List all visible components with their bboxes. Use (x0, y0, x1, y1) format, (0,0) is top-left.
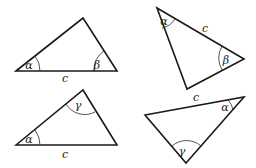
triangle-diagram: α β c α β c α γ c α γ c (0, 0, 256, 168)
triangle-1: α β c (16, 18, 117, 85)
triangle-2: α β c (157, 8, 244, 89)
angle-alpha-label: α (25, 133, 33, 146)
triangle-2-outline (157, 8, 244, 89)
triangle-4: α γ c (145, 91, 244, 163)
angle-gamma-label: γ (75, 99, 82, 112)
side-c-label: c (62, 72, 68, 85)
angle-gamma-label: γ (179, 145, 186, 158)
side-c-label: c (202, 22, 208, 35)
triangle-3: α γ c (16, 90, 117, 161)
angle-beta-arc (219, 46, 222, 70)
angle-alpha-arc (35, 130, 40, 145)
angle-alpha-label: α (221, 101, 229, 114)
angle-alpha-arc (35, 56, 40, 71)
angle-alpha-label: α (25, 59, 33, 72)
side-c-label: c (193, 91, 199, 104)
angle-gamma-arc (172, 141, 201, 146)
angle-beta-label: β (93, 59, 100, 72)
angle-alpha-arc (228, 100, 233, 110)
angle-beta-label: β (222, 54, 229, 67)
triangle-4-outline (145, 97, 244, 163)
side-c-label: c (62, 148, 68, 161)
angle-alpha-label: α (160, 15, 168, 28)
